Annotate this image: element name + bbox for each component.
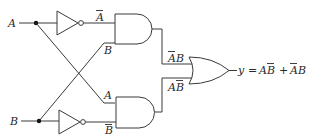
inverter-a-bubble	[79, 21, 84, 26]
term1-b: B	[266, 64, 275, 77]
term2-b: B	[297, 64, 306, 77]
term2-a: A	[289, 64, 298, 77]
inverter-b	[59, 110, 80, 134]
inv-b-out-label: B	[104, 124, 113, 137]
or-gate	[189, 57, 229, 84]
and-bottom-out-label-a: A	[167, 81, 176, 94]
and-top-out-label-b: B	[175, 52, 184, 65]
and-gate-bottom	[116, 97, 155, 128]
inv-a-out-label: A	[95, 11, 104, 24]
logic-circuit-diagram: A A B B B A A B A B y = A B + A B	[0, 0, 314, 139]
term1-a: A	[258, 64, 267, 77]
and-top-in-b-label: B	[103, 44, 112, 57]
output-equals: =	[248, 64, 257, 77]
and-bottom-out-label-b: B	[175, 81, 184, 94]
inverter-b-bubble	[81, 120, 86, 125]
output-y-label: y	[237, 64, 245, 77]
junction-b-dot	[37, 119, 41, 123]
inverter-a	[57, 11, 78, 35]
input-b-label: B	[9, 115, 18, 128]
input-a-label: A	[7, 17, 16, 30]
plus-sign: +	[279, 64, 288, 77]
and-top-out-label-a: A	[167, 52, 176, 65]
and-gate-top	[115, 14, 152, 44]
and-bottom-in-a-label: A	[103, 89, 112, 102]
